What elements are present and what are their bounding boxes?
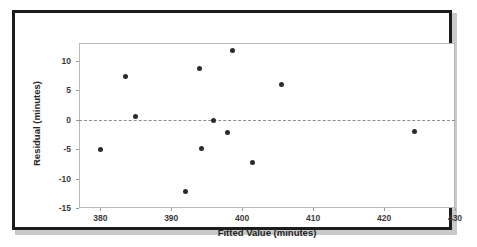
x-tick-label: 430 xyxy=(435,213,475,223)
x-axis-title: Fitted Value (minutes) xyxy=(79,227,455,238)
residual-plot-figure: Residual (minutes) Fitted Value (minutes… xyxy=(0,0,477,247)
data-point xyxy=(250,160,255,165)
x-tick-label: 420 xyxy=(364,213,404,223)
data-point xyxy=(197,66,202,71)
x-tick-mark xyxy=(313,208,314,211)
y-tick-mark xyxy=(76,120,79,121)
y-tick-label: 0 xyxy=(39,115,71,125)
x-tick-mark xyxy=(455,208,456,211)
x-tick-mark xyxy=(100,208,101,211)
y-tick-label: -15 xyxy=(39,203,71,213)
data-point xyxy=(279,82,284,87)
data-point xyxy=(225,130,230,135)
x-tick-mark xyxy=(242,208,243,211)
y-tick-label: 5 xyxy=(39,85,71,95)
plot-data-area xyxy=(79,43,455,208)
y-tick-mark xyxy=(76,90,79,91)
zero-reference-line xyxy=(79,120,455,121)
x-tick-mark xyxy=(171,208,172,211)
data-point xyxy=(183,189,188,194)
data-point xyxy=(199,146,204,151)
y-tick-mark xyxy=(76,208,79,209)
y-tick-label: 10 xyxy=(39,56,71,66)
figure-outer-border: Residual (minutes) Fitted Value (minutes… xyxy=(12,10,452,230)
data-point xyxy=(123,74,128,79)
y-tick-mark xyxy=(76,149,79,150)
data-point xyxy=(230,48,235,53)
data-point xyxy=(412,129,417,134)
x-tick-label: 400 xyxy=(222,213,262,223)
x-tick-label: 390 xyxy=(151,213,191,223)
x-tick-label: 380 xyxy=(80,213,120,223)
data-point xyxy=(211,118,216,123)
y-tick-mark xyxy=(76,179,79,180)
y-tick-label: -10 xyxy=(39,174,71,184)
y-tick-label: -5 xyxy=(39,144,71,154)
x-tick-mark xyxy=(384,208,385,211)
data-point xyxy=(133,114,138,119)
y-tick-mark xyxy=(76,61,79,62)
x-tick-label: 410 xyxy=(293,213,333,223)
data-point xyxy=(98,147,103,152)
